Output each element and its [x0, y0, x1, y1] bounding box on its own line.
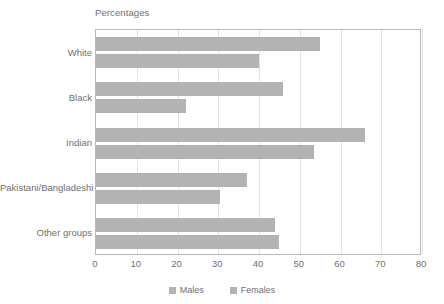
- chart-title: Percentages: [95, 7, 149, 18]
- legend-swatch-icon: [169, 287, 176, 294]
- bar-females-white: [96, 54, 259, 68]
- y-axis-label-other-groups: Other groups: [0, 227, 92, 238]
- bar-females-other-groups: [96, 235, 279, 249]
- bar-males-other-groups: [96, 218, 275, 232]
- y-axis-category-labels: WhiteBlackIndianPakistani/BangladeshiOth…: [0, 29, 92, 255]
- y-axis-label-indian: Indian: [0, 137, 92, 148]
- bar-males-pakistani-bangladeshi: [96, 173, 247, 187]
- x-axis-tick-40: 40: [253, 258, 264, 269]
- y-axis-label-white: White: [0, 46, 92, 57]
- y-axis-label-pakistani-bangladeshi: Pakistani/Bangladeshi: [0, 182, 92, 193]
- bar-females-pakistani-bangladeshi: [96, 190, 220, 204]
- x-axis-tick-70: 70: [375, 258, 386, 269]
- legend-label: Males: [180, 285, 204, 295]
- bar-chart-figure: Percentages WhiteBlackIndianPakistani/Ba…: [0, 0, 444, 304]
- gridline: [300, 30, 301, 254]
- bar-females-black: [96, 99, 186, 113]
- legend-item-females[interactable]: Females: [230, 285, 276, 295]
- bar-females-indian: [96, 145, 314, 159]
- gridline: [422, 30, 423, 254]
- plot-area: [95, 29, 421, 255]
- gridline: [381, 30, 382, 254]
- legend-swatch-icon: [230, 287, 237, 294]
- y-axis-label-black: Black: [0, 91, 92, 102]
- bar-males-white: [96, 37, 320, 51]
- gridline: [341, 30, 342, 254]
- bar-males-black: [96, 82, 283, 96]
- legend-label: Females: [241, 285, 276, 295]
- x-axis-tick-labels: 01020304050607080: [0, 258, 444, 274]
- x-axis-tick-0: 0: [92, 258, 97, 269]
- chart-legend: MalesFemales: [0, 281, 444, 299]
- legend-item-males[interactable]: Males: [169, 285, 204, 295]
- x-axis-tick-80: 80: [416, 258, 427, 269]
- x-axis-tick-10: 10: [130, 258, 141, 269]
- x-axis-tick-60: 60: [334, 258, 345, 269]
- x-axis-tick-50: 50: [293, 258, 304, 269]
- x-axis-tick-30: 30: [212, 258, 223, 269]
- x-axis-tick-20: 20: [171, 258, 182, 269]
- bar-males-indian: [96, 128, 365, 142]
